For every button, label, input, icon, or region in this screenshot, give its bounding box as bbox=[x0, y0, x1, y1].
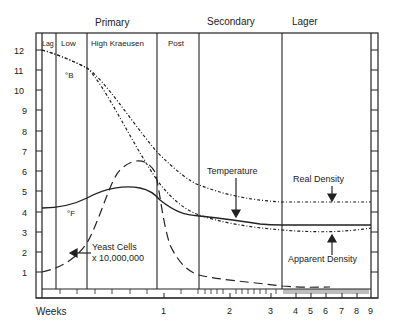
x-tick-label: 4 bbox=[293, 306, 298, 316]
temperature-curve bbox=[42, 187, 371, 225]
y-tick-label: 3 bbox=[22, 228, 27, 238]
header-lager: Lager bbox=[292, 16, 318, 27]
x-tick-label: 1 bbox=[161, 306, 166, 316]
y-tick-label: 6 bbox=[22, 167, 27, 177]
x-axis-day-ticks bbox=[60, 289, 276, 294]
y-tick-label: 8 bbox=[22, 127, 27, 137]
x-axis-label: Weeks bbox=[36, 306, 66, 317]
y-tick-label: 1 bbox=[22, 268, 27, 278]
subphase-low: Low bbox=[61, 39, 76, 48]
subphase-lag: Lag bbox=[42, 40, 54, 48]
subphase-post: Post bbox=[168, 39, 185, 48]
y-tick-label: 11 bbox=[14, 66, 23, 76]
label-apparent-density: Apparent Density bbox=[288, 254, 358, 264]
subphase-high-kraeusen: High Kraeusen bbox=[91, 39, 144, 48]
header-primary: Primary bbox=[95, 17, 129, 28]
fermentation-chart: Primary Secondary Lager Lag Low High Kra… bbox=[0, 0, 397, 331]
y-axis-ticks bbox=[36, 50, 42, 272]
unit-density: °B bbox=[65, 71, 74, 80]
label-yeast-multiplier: x 10,000,000 bbox=[92, 253, 144, 263]
label-temperature: Temperature bbox=[207, 166, 258, 176]
x-tick-label: 5 bbox=[308, 306, 313, 316]
right-axis-ticks bbox=[371, 50, 378, 272]
y-tick-label: 12 bbox=[14, 46, 24, 56]
x-tick-label: 9 bbox=[368, 306, 373, 316]
yeast-cells-curve bbox=[42, 161, 330, 287]
y-tick-label: 7 bbox=[22, 147, 27, 157]
x-tick-label: 6 bbox=[323, 306, 328, 316]
label-yeast-cells: Yeast Cells bbox=[92, 242, 137, 252]
x-tick-label: 7 bbox=[339, 306, 344, 316]
label-real-density: Real Density bbox=[293, 174, 345, 184]
x-tick-label: 2 bbox=[227, 306, 232, 316]
y-tick-label: 5 bbox=[22, 187, 27, 197]
y-tick-label: 4 bbox=[22, 208, 27, 218]
x-tick-label: 8 bbox=[354, 306, 359, 316]
text-labels: Primary Secondary Lager Lag Low High Kra… bbox=[14, 16, 373, 317]
y-tick-label: 10 bbox=[14, 86, 24, 96]
header-secondary: Secondary bbox=[207, 16, 255, 27]
x-tick-label: 3 bbox=[268, 306, 273, 316]
y-tick-label: 9 bbox=[22, 106, 27, 116]
apparent-density-curve bbox=[42, 50, 371, 232]
y-tick-label: 2 bbox=[22, 248, 27, 258]
unit-temperature: °F bbox=[67, 209, 75, 218]
